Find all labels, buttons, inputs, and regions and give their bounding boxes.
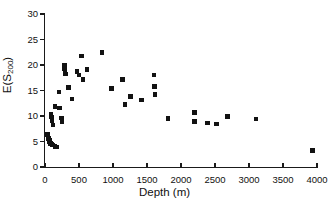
data-point-marker (100, 50, 105, 55)
x-axis-tick-label-text: 3000 (238, 174, 259, 185)
data-point-marker (225, 114, 230, 119)
scatter-chart-figure: 051015202530 050010001500200025003000350… (0, 0, 329, 212)
x-axis-tick-label-text: 1500 (136, 174, 157, 185)
y-axis-tick-mark (40, 39, 44, 40)
x-axis-tick-label-text: 500 (71, 174, 87, 185)
data-point-marker (192, 110, 197, 115)
y-axis-tick-label-text: 20 (27, 60, 38, 70)
y-axis-title-base: E(S (1, 74, 13, 93)
data-point-marker (152, 84, 157, 89)
data-point-marker (109, 86, 114, 91)
y-axis-tick-mark (40, 141, 44, 142)
x-axis-tick-label-text: 4000 (306, 174, 327, 185)
data-point-marker (51, 123, 56, 128)
y-axis-tick-label-text: 30 (27, 9, 38, 19)
plot-area (45, 14, 317, 167)
y-axis-tick-label-text: 10 (27, 111, 38, 121)
data-point-marker (79, 54, 84, 59)
y-axis-tick-mark (40, 166, 44, 167)
y-axis-tick-mark (40, 13, 44, 14)
x-axis-tick-label-text: 3500 (272, 174, 293, 185)
y-axis-tick-label-text: 15 (27, 86, 38, 96)
data-point-marker (57, 90, 62, 95)
data-point-marker (128, 94, 133, 99)
data-point-marker (55, 145, 60, 150)
y-axis-title-subscript: 200 (6, 61, 15, 74)
data-point-marker (70, 97, 75, 102)
data-point-marker (310, 148, 315, 153)
x-axis-tick-label: 4000 (295, 169, 329, 181)
x-axis-tick-label-text: 0 (42, 174, 47, 185)
data-point-marker (152, 73, 157, 78)
x-axis-tick-label-text: 2500 (204, 174, 225, 185)
data-point-marker (63, 72, 68, 77)
y-axis-tick-mark (40, 64, 44, 65)
data-point-marker (66, 85, 71, 90)
x-axis-tick-label-text: 1000 (102, 174, 123, 185)
y-axis-tick-mark (40, 115, 44, 116)
data-point-marker (85, 67, 90, 72)
data-point-marker (192, 119, 197, 124)
data-point-marker (166, 116, 171, 121)
data-point-marker (214, 122, 219, 127)
y-axis-tick-label-text: 5 (33, 137, 38, 147)
data-point-marker (120, 77, 125, 82)
y-axis-title-close: ) (1, 57, 13, 61)
data-point-marker (205, 121, 210, 126)
data-point-marker (81, 77, 86, 82)
data-point-marker (57, 106, 62, 111)
y-axis-tick-label: 30 (0, 9, 38, 19)
y-axis-tick-label: 5 (0, 137, 38, 147)
x-axis-title: Depth (m) (0, 186, 329, 198)
data-point-marker (139, 98, 144, 103)
data-point-marker (153, 92, 158, 97)
data-point-marker (123, 102, 128, 107)
x-axis-tick-label-text: 2000 (170, 174, 191, 185)
y-axis-tick-mark (40, 90, 44, 91)
data-point-marker (60, 119, 65, 124)
y-axis-tick-label-text: 25 (27, 35, 38, 45)
data-point-marker (254, 117, 259, 122)
y-axis-title: E(S200) (1, 31, 15, 119)
